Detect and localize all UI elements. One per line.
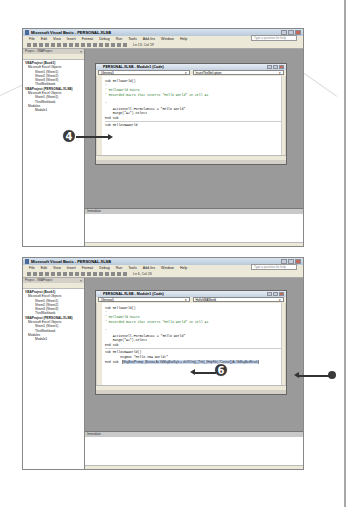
insert-module-icon[interactable] bbox=[33, 43, 37, 47]
menu-addins[interactable]: Add-Ins bbox=[143, 265, 155, 271]
vertical-scrollbar[interactable] bbox=[281, 76, 285, 155]
procedure-dropdown[interactable]: InsertTheNet'cption▾ bbox=[193, 70, 285, 75]
copy-icon[interactable] bbox=[51, 43, 55, 47]
maximize-button[interactable] bbox=[273, 292, 278, 296]
close-button[interactable] bbox=[279, 65, 284, 69]
procedure-separator bbox=[105, 348, 285, 349]
menu-debug[interactable]: Debug bbox=[99, 36, 110, 42]
tree-item[interactable]: Module1 bbox=[23, 337, 84, 341]
menu-help[interactable]: Help bbox=[180, 36, 187, 42]
menu-run[interactable]: Run bbox=[116, 36, 123, 42]
menu-debug[interactable]: Debug bbox=[99, 265, 110, 271]
callout-arrow bbox=[298, 375, 330, 377]
find-icon[interactable] bbox=[63, 43, 67, 47]
view-excel-icon[interactable] bbox=[27, 43, 31, 47]
find-icon[interactable] bbox=[63, 272, 67, 276]
horizontal-scrollbar[interactable] bbox=[85, 242, 303, 246]
close-icon[interactable]: × bbox=[80, 49, 82, 54]
menu-view[interactable]: View bbox=[53, 265, 61, 271]
close-icon[interactable]: × bbox=[80, 278, 82, 283]
step-callout-4: 4 bbox=[62, 129, 76, 143]
arrow-head-icon bbox=[108, 134, 113, 140]
menu-insert[interactable]: Insert bbox=[67, 36, 76, 42]
design-mode-icon[interactable] bbox=[99, 43, 103, 47]
save-icon[interactable] bbox=[39, 43, 43, 47]
object-browser-icon[interactable] bbox=[117, 272, 121, 276]
project-tree: VBAProject (Book1) Microsoft Excel Objec… bbox=[23, 60, 84, 113]
vertical-scrollbar[interactable] bbox=[281, 303, 285, 385]
menu-edit[interactable]: Edit bbox=[41, 36, 47, 42]
chevron-down-icon: ▾ bbox=[279, 71, 283, 74]
immediate-window[interactable]: Immediate bbox=[85, 431, 303, 469]
project-explorer-icon[interactable] bbox=[105, 43, 109, 47]
menu-bar: File Edit View Insert Format Debug Run T… bbox=[23, 265, 303, 271]
cut-icon[interactable] bbox=[45, 272, 49, 276]
code-line-with-tooltip: End Sub MsgBox(Prompt, [Buttons As VbMsg… bbox=[105, 360, 285, 365]
menu-addins[interactable]: Add-Ins bbox=[143, 36, 155, 42]
menu-edit[interactable]: Edit bbox=[41, 265, 47, 271]
break-icon[interactable] bbox=[87, 43, 91, 47]
object-dropdown[interactable]: (General)▾ bbox=[98, 297, 190, 302]
menu-tools[interactable]: Tools bbox=[128, 36, 136, 42]
project-explorer-icon[interactable] bbox=[105, 272, 109, 276]
cursor-position: Ln 13, Col 19 bbox=[133, 43, 154, 47]
help-search-input[interactable]: Type a question for help bbox=[251, 264, 297, 270]
menu-view[interactable]: View bbox=[53, 36, 61, 42]
paste-icon[interactable] bbox=[57, 272, 61, 276]
help-search-input[interactable]: Type a question for help bbox=[251, 35, 297, 41]
view-excel-icon[interactable] bbox=[27, 272, 31, 276]
save-icon[interactable] bbox=[39, 272, 43, 276]
callout-arrow bbox=[76, 136, 110, 138]
cut-icon[interactable] bbox=[45, 43, 49, 47]
reset-icon[interactable] bbox=[93, 43, 97, 47]
project-explorer: Project - VBAProject× VBAProject (Book1)… bbox=[23, 49, 85, 246]
break-icon[interactable] bbox=[87, 272, 91, 276]
redo-icon[interactable] bbox=[75, 272, 79, 276]
tree-item[interactable]: Module1 bbox=[23, 108, 84, 112]
insert-module-icon[interactable] bbox=[33, 272, 37, 276]
object-browser-icon[interactable] bbox=[117, 43, 121, 47]
undo-icon[interactable] bbox=[69, 272, 73, 276]
minimize-button[interactable] bbox=[267, 292, 272, 296]
menu-help[interactable]: Help bbox=[180, 265, 187, 271]
menu-window[interactable]: Window bbox=[161, 265, 174, 271]
menu-run[interactable]: Run bbox=[116, 265, 123, 271]
menu-insert[interactable]: Insert bbox=[67, 265, 76, 271]
design-mode-icon[interactable] bbox=[99, 272, 103, 276]
minimize-button[interactable] bbox=[267, 65, 272, 69]
redo-icon[interactable] bbox=[75, 43, 79, 47]
maximize-button[interactable] bbox=[273, 65, 278, 69]
menu-format[interactable]: Format bbox=[82, 265, 93, 271]
toolbox-icon[interactable] bbox=[123, 272, 127, 276]
project-tree: VBAProject (Book1) Microsoft Excel Objec… bbox=[23, 289, 84, 342]
callout-arrow bbox=[194, 372, 216, 374]
menu-file[interactable]: File bbox=[29, 265, 35, 271]
code-line: End Sub bbox=[105, 343, 285, 348]
undo-icon[interactable] bbox=[69, 43, 73, 47]
reset-icon[interactable] bbox=[93, 272, 97, 276]
run-icon[interactable] bbox=[81, 43, 85, 47]
immediate-title: Immediate bbox=[85, 209, 303, 214]
menu-window[interactable]: Window bbox=[161, 36, 174, 42]
paste-icon[interactable] bbox=[57, 43, 61, 47]
horizontal-scrollbar[interactable] bbox=[96, 155, 286, 160]
immediate-window[interactable]: Immediate bbox=[85, 208, 303, 246]
run-icon[interactable] bbox=[81, 272, 85, 276]
menu-file[interactable]: File bbox=[29, 36, 35, 42]
mdi-workspace: PERSONAL.XLSB - Module1 (Code) (General)… bbox=[85, 278, 303, 433]
toolbox-icon[interactable] bbox=[123, 43, 127, 47]
close-button[interactable] bbox=[279, 292, 284, 296]
horizontal-scrollbar[interactable] bbox=[85, 465, 303, 469]
vbe-screenshot-2: Microsoft Visual Basic - PERSONAL.XLSB F… bbox=[22, 257, 304, 470]
horizontal-scrollbar[interactable] bbox=[96, 385, 286, 390]
menu-format[interactable]: Format bbox=[82, 36, 93, 42]
copy-icon[interactable] bbox=[51, 272, 55, 276]
code-editor[interactable]: Sub HelloWorld() ' ' HelloWorld Macro ' … bbox=[97, 76, 285, 155]
project-pane-title: Project - VBAProject× bbox=[23, 49, 84, 54]
procedure-dropdown[interactable]: HelloVBAWorld▾ bbox=[193, 297, 285, 302]
code-window: PERSONAL.XLSB - Module1 (Code) (General)… bbox=[95, 290, 287, 395]
properties-icon[interactable] bbox=[111, 43, 115, 47]
object-dropdown[interactable]: (General)▾ bbox=[98, 70, 190, 75]
properties-icon[interactable] bbox=[111, 272, 115, 276]
menu-tools[interactable]: Tools bbox=[128, 265, 136, 271]
